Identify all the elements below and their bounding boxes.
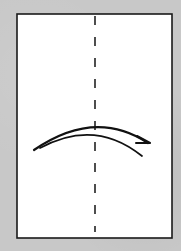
diagram-canvas: Fold in half vertically: valley fold alo… <box>0 0 181 251</box>
fold-diagram <box>0 0 181 251</box>
